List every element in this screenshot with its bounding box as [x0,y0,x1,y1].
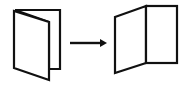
open-booklet-right-panel [146,6,177,63]
closed-booklet-front-panel [14,11,49,80]
booklet-diagram [0,0,187,85]
closed-booklet-icon [14,10,60,80]
arrow-icon [70,39,107,47]
open-booklet-left-panel [115,6,146,73]
open-booklet-icon [115,6,177,73]
